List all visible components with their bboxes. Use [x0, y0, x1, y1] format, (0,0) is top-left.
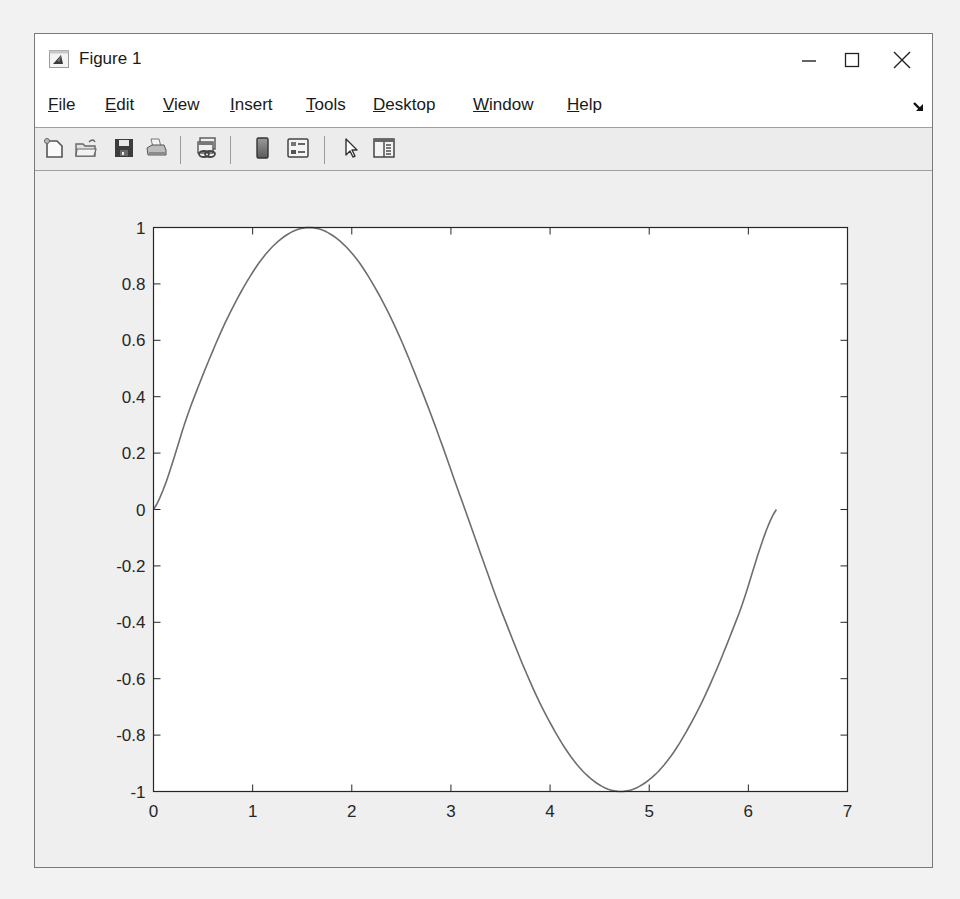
- x-tick-label: 3: [446, 802, 455, 821]
- axes-area[interactable]: [154, 228, 848, 792]
- x-tick-label: 2: [347, 802, 356, 821]
- y-tick-label: 0: [136, 501, 145, 520]
- x-tick-label: 5: [644, 802, 653, 821]
- y-tick-label: 0.2: [122, 444, 146, 463]
- y-tick-label: 0.8: [122, 275, 146, 294]
- x-tick-label: 4: [545, 802, 554, 821]
- x-axis-tick-labels: 01234567: [149, 802, 852, 821]
- figure-canvas[interactable]: 01234567 10.80.60.40.20-0.2-0.4-0.6-0.8-…: [35, 171, 932, 867]
- x-tick-label: 0: [149, 802, 158, 821]
- y-tick-label: -0.8: [116, 726, 145, 745]
- plot-svg: 01234567 10.80.60.40.20-0.2-0.4-0.6-0.8-…: [1, 1, 960, 899]
- figure-window: Figure 1 File Edit View Insert Tools Des…: [34, 33, 933, 868]
- x-tick-label: 7: [843, 802, 852, 821]
- x-tick-label: 6: [744, 802, 753, 821]
- y-tick-label: 1: [136, 219, 145, 238]
- y-tick-label: -0.2: [116, 557, 145, 576]
- y-tick-label: -0.6: [116, 670, 145, 689]
- y-tick-label: 0.4: [122, 388, 146, 407]
- y-tick-label: -1: [130, 783, 145, 802]
- y-tick-label: 0.6: [122, 331, 146, 350]
- y-axis-tick-labels: 10.80.60.40.20-0.2-0.4-0.6-0.8-1: [116, 219, 145, 802]
- y-tick-label: -0.4: [116, 613, 145, 632]
- x-tick-label: 1: [248, 802, 257, 821]
